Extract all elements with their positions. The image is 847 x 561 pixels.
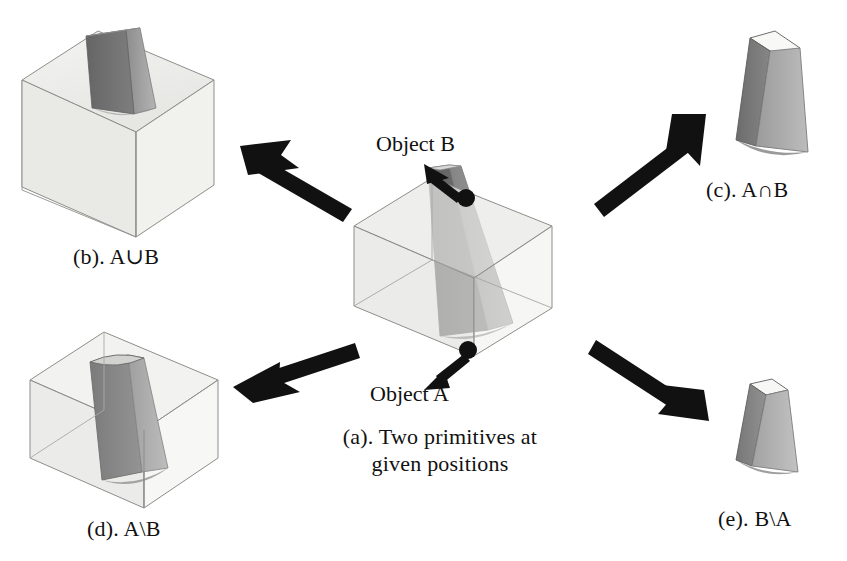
caption-union: (b). A∪B: [73, 244, 159, 270]
arrow-to-b-minus-a: [588, 340, 709, 421]
label-object-b: Object B: [376, 131, 455, 157]
panel-union: [18, 22, 248, 237]
panel-b-minus-a: [726, 372, 836, 492]
union-illustration: [18, 22, 248, 237]
caption-two-primitives: (a). Two primitives at given positions: [318, 424, 562, 478]
panel-two-primitives: [348, 160, 598, 360]
panel-a-minus-b: [26, 318, 236, 518]
panel-intersection: [712, 22, 832, 172]
figure-root: (b). A∪B: [0, 0, 847, 561]
arrow-to-a-minus-b: [233, 343, 360, 403]
intersection-illustration: [712, 22, 832, 172]
caption-b-minus-a: (e). B\A: [718, 506, 792, 532]
arrow-to-intersection: [594, 114, 706, 217]
b-minus-a-illustration: [726, 372, 836, 492]
caption-intersection: (c). A∩B: [706, 177, 788, 203]
two-primitives-illustration: [348, 160, 598, 360]
arrow-to-union: [240, 140, 352, 222]
object-a-box: [354, 178, 552, 356]
a-minus-b-illustration: [26, 318, 236, 518]
label-object-a: Object A: [370, 381, 449, 407]
frustum-protrusion: [86, 28, 156, 115]
caption-a-minus-b: (d). A\B: [87, 516, 161, 542]
